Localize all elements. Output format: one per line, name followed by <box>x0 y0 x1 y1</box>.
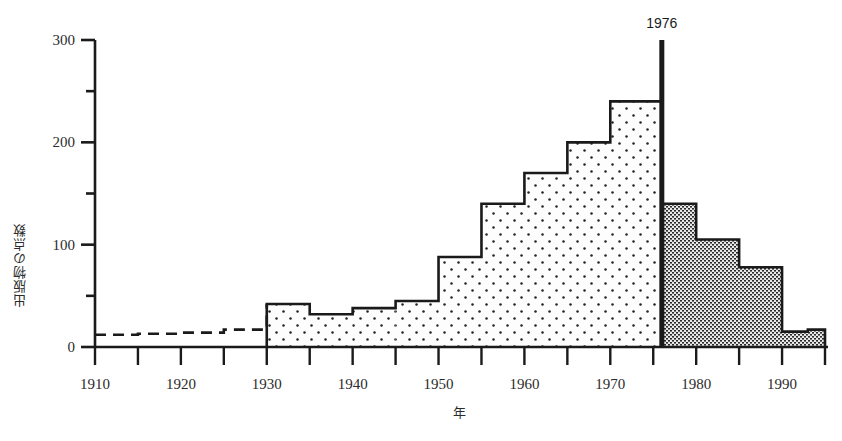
histogram-bar <box>524 173 567 347</box>
histogram-bar <box>481 204 524 347</box>
dashed-segment <box>95 304 267 335</box>
histogram-bar <box>567 142 610 347</box>
histogram-bar <box>310 314 353 347</box>
x-tick-label: 1970 <box>595 376 625 392</box>
x-tick-label: 1910 <box>80 376 110 392</box>
histogram-plot: 0100200300191019201930194019501960197019… <box>0 0 842 441</box>
histogram-bar <box>610 101 662 347</box>
x-tick-label: 1980 <box>681 376 711 392</box>
histogram-bar <box>396 301 439 347</box>
histogram-bar <box>267 304 310 347</box>
histogram-bar <box>696 240 739 347</box>
histogram-bar <box>782 332 808 347</box>
chart-figure: 出版物の点数 年 0100200300191019201930194019501… <box>0 0 842 441</box>
histogram-bars <box>267 101 825 347</box>
x-tick-label: 1990 <box>767 376 797 392</box>
x-tick-label: 1950 <box>424 376 454 392</box>
histogram-bar <box>353 308 396 347</box>
y-tick-label: 100 <box>53 237 76 253</box>
x-tick-label: 1960 <box>509 376 539 392</box>
annotation-label-1976: 1976 <box>646 15 677 31</box>
histogram-bar <box>439 257 482 347</box>
y-tick-label: 0 <box>68 339 76 355</box>
x-tick-label: 1940 <box>338 376 368 392</box>
histogram-bar <box>808 330 825 347</box>
x-tick-label: 1930 <box>252 376 282 392</box>
x-tick-label: 1920 <box>166 376 196 392</box>
histogram-bar <box>739 267 782 347</box>
y-tick-label: 300 <box>53 32 76 48</box>
y-tick-label: 200 <box>53 134 76 150</box>
histogram-bar <box>662 204 696 347</box>
